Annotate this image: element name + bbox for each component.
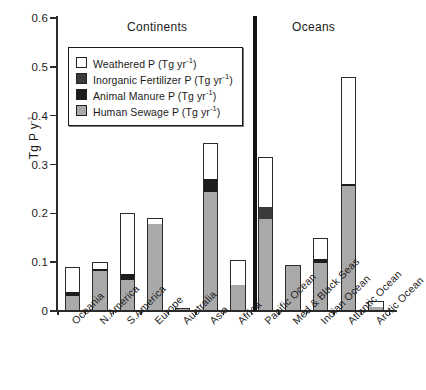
legend-label: Weathered P (Tg yr-1) (93, 56, 197, 70)
continents-oceans-divider (253, 16, 258, 311)
y-tick-label: 0.2 (31, 207, 48, 219)
y-tick-mark (50, 164, 56, 165)
bar-segment (258, 157, 274, 206)
y-tick-label: 0.5 (31, 61, 48, 73)
legend-swatch (76, 105, 87, 116)
legend-item: Animal Manure P (Tg yr-1) (76, 87, 233, 102)
bar-segment (341, 77, 357, 184)
bar-segment (258, 207, 274, 220)
legend-item: Weathered P (Tg yr-1) (76, 55, 233, 70)
y-tick-mark (50, 66, 56, 67)
y-tick-mark (50, 115, 56, 116)
bar-segment (147, 218, 163, 224)
legend-label: Human Sewage P (Tg yr-1) (93, 104, 220, 118)
bar-segment (230, 260, 246, 285)
bar-segment (230, 285, 246, 311)
bar-segment (313, 238, 329, 259)
bar-segment (203, 143, 219, 179)
legend-label: Inorganic Fertilizer P (Tg yr-1) (93, 72, 233, 86)
bar-pacific-ocean (258, 18, 274, 311)
y-tick-mark (50, 310, 56, 311)
y-tick-label: 0.3 (31, 159, 48, 171)
bar-segment (120, 274, 136, 280)
x-tick-mark (57, 310, 58, 315)
legend-swatch (76, 73, 87, 84)
y-tick-label: 0.1 (31, 256, 48, 268)
bar-segment (203, 179, 219, 193)
y-tick-label: 0.6 (31, 12, 48, 24)
y-axis-ticks: 00.10.20.30.40.50.6 (0, 0, 56, 390)
bar-arctic-ocean (368, 18, 384, 311)
bar-segment (120, 213, 136, 274)
y-tick-mark (50, 213, 56, 214)
bar-segment (65, 267, 81, 292)
chart-legend: Weathered P (Tg yr-1)Inorganic Fertilize… (68, 47, 243, 126)
bar-segment (92, 269, 108, 271)
y-tick-mark (50, 261, 56, 262)
bar-indian-ocean (313, 18, 329, 311)
y-tick-label: 0.4 (31, 110, 48, 122)
bar-segment (313, 259, 329, 263)
bar-med-black-seas (285, 18, 301, 311)
bar-segment (258, 219, 274, 311)
legend-swatch (76, 89, 87, 100)
bar-segment (341, 184, 357, 187)
bar-segment (65, 292, 81, 296)
legend-label: Animal Manure P (Tg yr-1) (93, 88, 216, 102)
y-tick-mark (50, 17, 56, 18)
legend-item: Human Sewage P (Tg yr-1) (76, 103, 233, 118)
legend-swatch (76, 57, 87, 68)
bar-segment (92, 262, 108, 268)
y-tick-label: 0 (41, 305, 48, 317)
legend-item: Inorganic Fertilizer P (Tg yr-1) (76, 71, 233, 86)
